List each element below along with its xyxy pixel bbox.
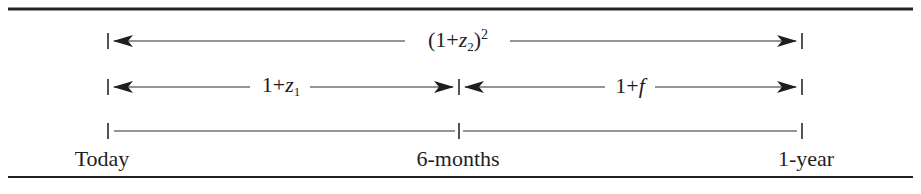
label-two-year-spot: (1+z2)2	[425, 27, 491, 55]
row-spot-and-forward	[108, 79, 802, 95]
label-part-exp: 2	[481, 27, 488, 42]
label-one-year: 1-year	[778, 146, 834, 172]
label-part-one-plus: 1+	[262, 72, 285, 97]
label-forward: 1+f	[612, 73, 648, 99]
label-part-z: z	[459, 27, 468, 52]
label-six-month-spot: 1+z1	[259, 72, 303, 100]
label-today: Today	[75, 146, 130, 172]
label-six-months: 6-months	[416, 146, 499, 172]
label-part-z: z	[285, 72, 294, 97]
label-part-one-plus: 1+	[615, 73, 638, 98]
label-part-open: (1+	[428, 27, 459, 52]
label-part-sub: 1	[294, 84, 301, 99]
label-part-f: f	[639, 73, 645, 98]
row-timeline	[108, 123, 802, 139]
